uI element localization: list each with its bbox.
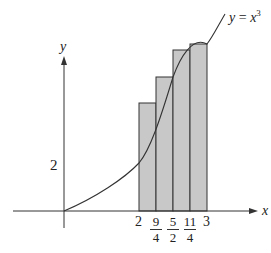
- x-tick-9-4: 9 4: [148, 215, 164, 244]
- rectangles: [139, 44, 207, 211]
- x-tick-9-4-num: 9: [148, 215, 164, 228]
- x-tick-11-4: 11 4: [182, 215, 198, 244]
- x-tick-5-2-den: 2: [165, 231, 181, 244]
- x-axis-arrow-icon: [249, 208, 258, 214]
- y-axis-label: y: [60, 40, 66, 54]
- x-tick-9-4-den: 4: [148, 231, 164, 244]
- x-tick-3: 3: [203, 215, 210, 229]
- x-axis-label: x: [262, 204, 268, 218]
- axes: [13, 62, 252, 228]
- rectangle-4: [190, 44, 207, 211]
- rectangle-1: [139, 103, 156, 211]
- y-tick-2: 2: [50, 158, 58, 173]
- curve-label-exponent: 3: [256, 8, 261, 18]
- x-tick-5-2: 5 2: [165, 215, 181, 244]
- curve-label: y = x3: [229, 9, 261, 25]
- x-tick-2: 2: [135, 215, 142, 229]
- x-tick-11-4-num: 11: [182, 215, 198, 228]
- curve-label-eq: =: [235, 10, 250, 25]
- rectangle-2: [156, 77, 173, 211]
- rectangle-3: [173, 50, 190, 211]
- x-tick-11-4-den: 4: [182, 231, 198, 244]
- x-tick-5-2-num: 5: [165, 215, 181, 228]
- y-axis-arrow-icon: [61, 56, 67, 65]
